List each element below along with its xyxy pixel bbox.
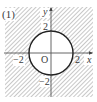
tick-label-y-pos: 2 — [43, 21, 48, 32]
tick-label-x-neg: −2 — [13, 54, 24, 65]
figure-label: (1) — [2, 8, 15, 21]
tick-label-y-neg: −2 — [39, 76, 50, 87]
tick-label-x-pos: 2 — [75, 54, 80, 65]
y-axis-label: y — [42, 6, 48, 17]
origin-label: O — [41, 54, 48, 65]
region-diagram: (1) y x O 2 −2 −2 2 — [0, 0, 97, 102]
x-axis-label: x — [86, 54, 92, 65]
